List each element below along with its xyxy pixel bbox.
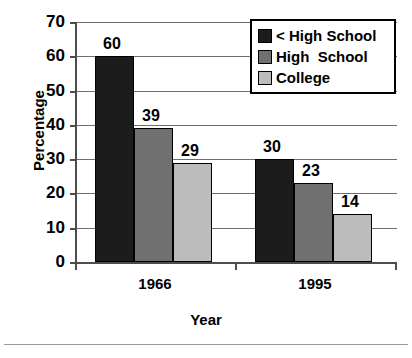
y-tick-label-70: 70 bbox=[21, 12, 65, 32]
bottom-divider bbox=[4, 344, 408, 345]
bar-value-label-1995-series-0: 30 bbox=[263, 138, 281, 156]
x-tick-mark-1 bbox=[235, 262, 237, 270]
legend-item-2: College bbox=[258, 67, 389, 88]
chart-legend: < High School High School College bbox=[250, 19, 396, 94]
bar-1995-series-1 bbox=[294, 183, 333, 262]
y-tick-label-50: 50 bbox=[21, 81, 65, 101]
bar-value-label-1966-series-2: 29 bbox=[181, 142, 199, 160]
legend-swatch-high-school bbox=[258, 50, 272, 64]
x-tick-mark-2 bbox=[395, 262, 397, 270]
y-tick-mark-50 bbox=[70, 91, 77, 93]
y-tick-mark-60 bbox=[70, 56, 77, 58]
y-tick-label-0: 0 bbox=[21, 252, 65, 272]
bar-value-label-1995-series-1: 23 bbox=[302, 162, 320, 180]
y-tick-mark-10 bbox=[70, 228, 77, 230]
bar-value-label-1966-series-0: 60 bbox=[103, 35, 121, 53]
legend-swatch-less-than-high-school bbox=[258, 29, 272, 43]
y-tick-label-30: 30 bbox=[21, 149, 65, 169]
y-tick-mark-40 bbox=[70, 125, 77, 127]
y-tick-label-60: 60 bbox=[21, 46, 65, 66]
legend-label-1: High School bbox=[276, 49, 368, 64]
bar-1966-series-0 bbox=[95, 56, 134, 262]
bar-1966-series-1 bbox=[134, 128, 173, 262]
legend-item-0: < High School bbox=[258, 25, 389, 46]
y-tick-label-20: 20 bbox=[21, 183, 65, 203]
bar-value-label-1995-series-2: 14 bbox=[341, 193, 359, 211]
bar-value-label-1966-series-1: 39 bbox=[142, 107, 160, 125]
legend-swatch-college bbox=[258, 71, 272, 85]
y-tick-label-40: 40 bbox=[21, 115, 65, 135]
x-tick-mark-0 bbox=[75, 262, 77, 270]
x-tick-label-1995: 1995 bbox=[298, 275, 331, 292]
y-tick-mark-70 bbox=[70, 22, 77, 24]
bar-chart: Percentage 010203040506070 19661995 Year… bbox=[0, 0, 412, 358]
legend-label-2: College bbox=[276, 70, 330, 85]
y-tick-label-10: 10 bbox=[21, 218, 65, 238]
bar-1966-series-2 bbox=[173, 163, 212, 262]
x-axis-title: Year bbox=[0, 311, 412, 328]
y-tick-mark-20 bbox=[70, 193, 77, 195]
legend-label-0: < High School bbox=[276, 28, 376, 43]
x-tick-label-1966: 1966 bbox=[138, 275, 171, 292]
bar-1995-series-0 bbox=[255, 159, 294, 262]
legend-item-1: High School bbox=[258, 46, 389, 67]
bar-1995-series-2 bbox=[333, 214, 372, 262]
y-tick-mark-30 bbox=[70, 159, 77, 161]
